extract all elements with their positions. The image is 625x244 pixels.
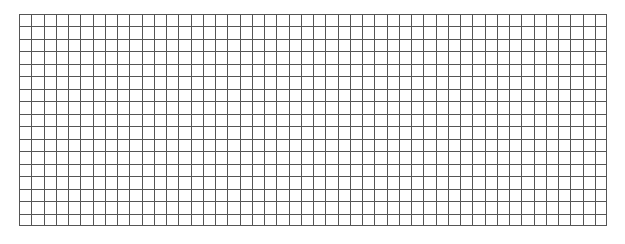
grid-lines [19, 14, 607, 226]
grid-paper [19, 14, 607, 226]
